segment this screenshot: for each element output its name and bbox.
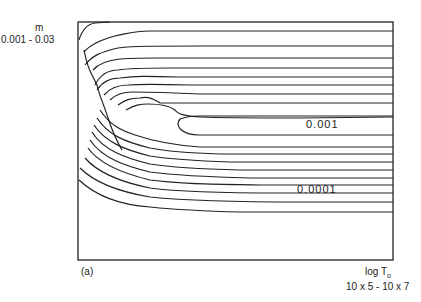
contour-plot: [0, 0, 421, 302]
contour-lines: [79, 22, 393, 212]
y-axis-label: m: [35, 22, 43, 33]
panel-label: (a): [81, 266, 93, 277]
x-axis-label: log To: [365, 266, 391, 281]
contour-label-0001: 0.001: [306, 119, 339, 130]
x-axis-label-text: log T: [365, 266, 387, 277]
y-range-label: 0.001 - 0.03: [1, 34, 54, 45]
x-axis-label-subscript: o: [387, 272, 391, 279]
contour-label-00001: 0.0001: [297, 184, 337, 195]
x-range-label: 10 x 5 - 10 x 7: [346, 281, 409, 292]
